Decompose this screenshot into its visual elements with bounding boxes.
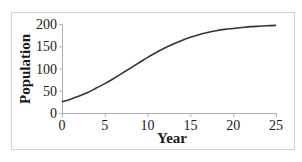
y-tick-label: 150 — [36, 39, 57, 54]
x-axis-title: Year — [157, 130, 187, 146]
population-chart: 050100150200 0510152025 Year Population — [0, 0, 302, 162]
y-tick-label: 50 — [43, 84, 57, 99]
x-tick-label: 20 — [226, 118, 240, 133]
y-tick-label: 0 — [50, 106, 57, 121]
x-tick-label: 0 — [59, 118, 66, 133]
y-tick-label: 100 — [36, 62, 57, 77]
y-tick-label: 200 — [36, 17, 57, 32]
y-axis-title: Population — [17, 33, 33, 104]
x-tick-label: 25 — [269, 118, 283, 133]
x-tick-label: 5 — [101, 118, 108, 133]
x-tick-label: 10 — [141, 118, 155, 133]
